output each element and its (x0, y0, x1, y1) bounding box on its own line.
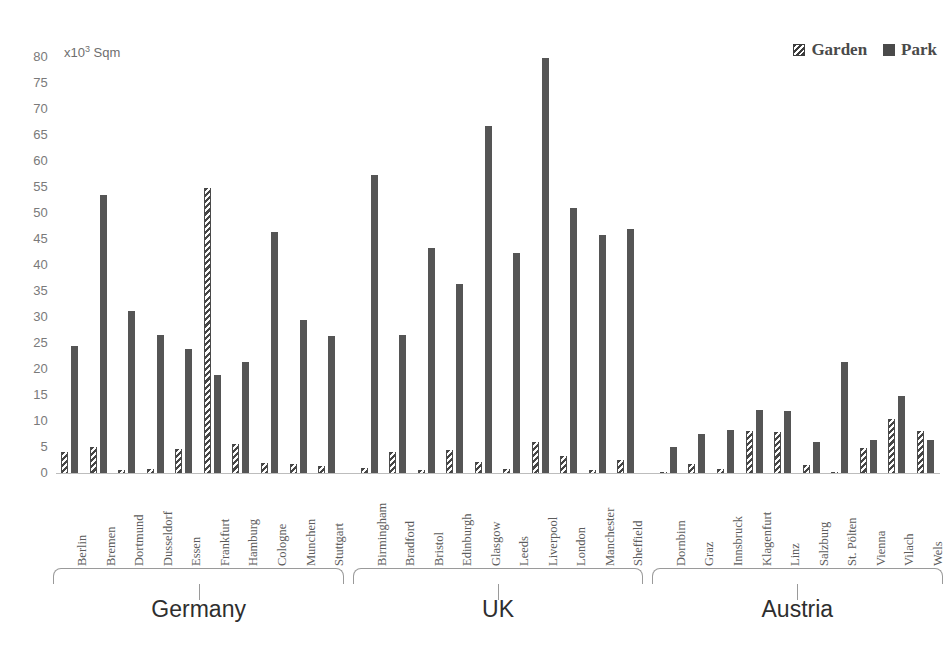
x-axis-label-text: Birmingham (375, 480, 390, 566)
y-axis-tick-0: 0 (14, 467, 48, 479)
x-axis-label-wels: Wels (931, 480, 946, 566)
garden-bar (617, 460, 624, 474)
garden-bar (560, 456, 567, 474)
park-bar (627, 229, 634, 474)
x-axis-label-text: Frankfurt (218, 480, 233, 566)
x-axis-label-text: Edinburgh (460, 480, 475, 566)
bar-group-salzburg (799, 52, 825, 474)
garden-bar (90, 447, 97, 474)
bar-group-manchester (585, 52, 611, 474)
y-axis-tick-80: 80 (14, 51, 48, 63)
park-bar (670, 447, 677, 474)
x-axis-label-innsbruck: Innsbruck (731, 480, 746, 566)
y-axis-tick-5: 5 (14, 441, 48, 453)
x-axis-label-birmingham: Birmingham (375, 480, 390, 566)
park-bar (271, 232, 278, 474)
garden-bar (746, 431, 753, 474)
x-axis-label-bristol: Bristol (432, 480, 447, 566)
bar-group-bradford (385, 52, 411, 474)
park-bar (428, 248, 435, 474)
park-bar (898, 396, 905, 474)
y-axis-tick-45: 45 (14, 233, 48, 245)
park-bar (214, 375, 221, 474)
garden-bar (774, 432, 781, 474)
park-bar (813, 442, 820, 474)
y-axis-tick-70: 70 (14, 103, 48, 115)
bar-group-innsbruck (713, 52, 739, 474)
x-axis-label-text: Vienna (874, 480, 889, 566)
bar-group-essen (171, 52, 197, 474)
bar-group-dornbirn (656, 52, 682, 474)
x-axis-label-dortmund: Dortmund (132, 480, 147, 566)
park-bar (841, 362, 848, 474)
park-bar (542, 58, 549, 474)
bar-group-stuttgart (314, 52, 340, 474)
x-axis-label-text: Hamburg (246, 480, 261, 566)
group-label-austria: Austria (652, 596, 943, 623)
x-axis-label-salzburg: Salzburg (817, 480, 832, 566)
garden-bar (389, 452, 396, 474)
bar-group-graz (684, 52, 710, 474)
x-axis-label-text: Munchen (304, 480, 319, 566)
garden-bar (61, 452, 68, 474)
park-bar (727, 430, 734, 474)
park-bar (300, 320, 307, 474)
group-label-germany: Germany (53, 596, 344, 623)
y-axis-tick-30: 30 (14, 311, 48, 323)
x-axis-label-text: Klagenfurt (760, 480, 775, 566)
x-axis-label-text: Dortmund (132, 480, 147, 566)
park-bar (513, 253, 520, 474)
park-bar (185, 349, 192, 474)
x-axis-label-text: Graz (702, 480, 717, 566)
x-axis-label-munchen: Munchen (304, 480, 319, 566)
park-bar (328, 336, 335, 474)
bar-group-berlin (57, 52, 83, 474)
x-axis-label-text: Leeds (517, 480, 532, 566)
group-bracket-germany (53, 568, 344, 584)
park-bar (756, 410, 763, 474)
x-axis-label-text: Essen (189, 480, 204, 566)
park-bar (870, 440, 877, 474)
garden-bar (446, 450, 453, 474)
y-axis-tick-15: 15 (14, 389, 48, 401)
x-axis-label-dornbirn: Dornbirn (674, 480, 689, 566)
x-axis-label-text: Liverpool (546, 480, 561, 566)
garden-bar (917, 431, 924, 474)
bar-group-cologne (257, 52, 283, 474)
x-axis-label-text: Bristol (432, 480, 447, 566)
bar-group-vilach (884, 52, 910, 474)
x-axis-label-stuttgart: Stuttgart (332, 480, 347, 566)
garden-bar (532, 442, 539, 474)
park-bar (456, 284, 463, 474)
group-label-uk: UK (353, 596, 644, 623)
bar-group-st-p-lten (827, 52, 853, 474)
bar-group-edinburgh (442, 52, 468, 474)
x-axis-label-text: Bremen (104, 480, 119, 566)
y-axis-tick-20: 20 (14, 363, 48, 375)
park-bar (371, 175, 378, 474)
x-axis-label-berlin: Berlin (75, 480, 90, 566)
x-axis-label-text: Stuttgart (332, 480, 347, 566)
group-bracket-uk (353, 568, 644, 584)
x-axis-label-text: Berlin (75, 480, 90, 566)
x-axis-label-text: Glasgow (489, 480, 504, 566)
park-bar (485, 126, 492, 474)
garden-bar (888, 419, 895, 474)
y-axis-tick-65: 65 (14, 129, 48, 141)
x-axis-label-text: Manchester (603, 480, 618, 566)
x-axis-label-text: Sheffield (631, 480, 646, 566)
park-bar (927, 440, 934, 474)
y-axis-tick-50: 50 (14, 207, 48, 219)
x-axis-label-text: Wels (931, 480, 946, 566)
bar-group-birmingham (357, 52, 383, 474)
x-axis-label-manchester: Manchester (603, 480, 618, 566)
x-axis-label-klagenfurt: Klagenfurt (760, 480, 775, 566)
garden-bar (204, 188, 211, 474)
y-axis-tick-60: 60 (14, 155, 48, 167)
x-axis-label-glasgow: Glasgow (489, 480, 504, 566)
y-axis-tick-10: 10 (14, 415, 48, 427)
group-bracket-austria (652, 568, 943, 584)
y-axis-tick-35: 35 (14, 285, 48, 297)
x-axis-label-bremen: Bremen (104, 480, 119, 566)
garden-bar (175, 449, 182, 474)
